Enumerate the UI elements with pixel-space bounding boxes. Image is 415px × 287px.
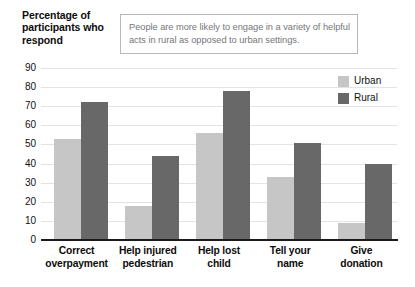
bar-rural: [365, 164, 392, 240]
y-tick-label: 90: [14, 63, 36, 73]
bar-group: [196, 68, 250, 240]
x-category-label-line: Give: [320, 245, 403, 258]
bar-chart-figure: Percentage of participants who respond P…: [0, 0, 415, 287]
callout-box: People are more likely to engage in a va…: [120, 14, 358, 54]
bar-urban: [338, 223, 365, 240]
bar-rural: [294, 143, 321, 240]
bar-urban: [196, 133, 223, 240]
bar-urban: [267, 177, 294, 240]
bar-urban: [125, 206, 152, 240]
x-category-label-line: donation: [320, 258, 403, 271]
legend-swatch-icon: [338, 93, 349, 104]
y-tick-label: 50: [14, 139, 36, 149]
y-tick-label: 10: [14, 216, 36, 226]
legend-label: Urban: [354, 75, 381, 86]
bar-group: [267, 68, 321, 240]
y-tick-label: 70: [14, 101, 36, 111]
callout-text: People are more likely to engage in a va…: [129, 21, 353, 47]
bar-rural: [81, 102, 108, 240]
y-tick-label: 30: [14, 178, 36, 188]
y-tick-label: 0: [14, 235, 36, 245]
bar-group: [54, 68, 108, 240]
y-tick-label: 20: [14, 197, 36, 207]
x-axis-line: [41, 239, 398, 241]
y-tick-label: 80: [14, 82, 36, 92]
y-tick-label: 60: [14, 120, 36, 130]
y-tick-label: 40: [14, 159, 36, 169]
bar-rural: [223, 91, 250, 240]
bar-rural: [152, 156, 179, 240]
y-axis-title: Percentage of participants who respond: [22, 9, 118, 46]
x-category-label: Givedonation: [320, 245, 403, 270]
legend-swatch-icon: [338, 76, 349, 87]
bar-group: [125, 68, 179, 240]
legend-label: Rural: [354, 92, 378, 103]
bar-urban: [54, 139, 81, 240]
